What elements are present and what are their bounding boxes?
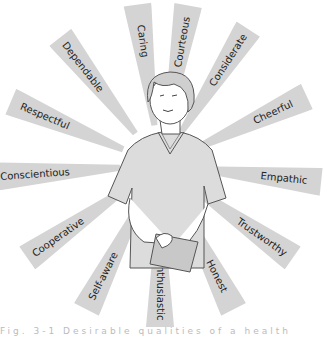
figure-caption: Fig. 3-1 Desirable qualities of a health… — [0, 326, 321, 337]
health-worker-illustration — [100, 58, 230, 278]
